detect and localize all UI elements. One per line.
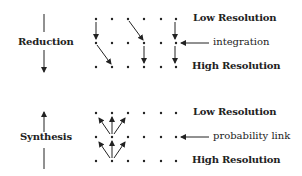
synthesis-low-resolution-label: Low Resolution — [193, 107, 276, 117]
reduction-label: Reduction — [18, 37, 74, 47]
reduction-dot-grid — [95, 18, 177, 68]
diagram-canvas — [0, 0, 302, 176]
integration-label: integration — [213, 37, 269, 47]
reduction-low-resolution-label: Low Resolution — [193, 13, 276, 23]
reduction-links — [96, 21, 175, 64]
reduction-high-resolution-label: High Resolution — [192, 61, 280, 71]
synthesis-label: Synthesis — [20, 132, 72, 142]
probability-link-label: probability link — [213, 131, 290, 141]
synthesis-high-resolution-label: High Resolution — [192, 155, 280, 165]
